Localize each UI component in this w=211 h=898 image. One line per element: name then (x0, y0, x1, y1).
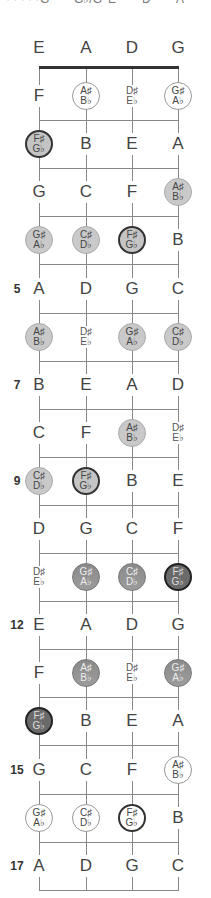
note-marker: F♯G♭ (72, 467, 100, 495)
flat-name: A♭ (172, 96, 184, 106)
note-marker: G♯A♭ (164, 82, 192, 110)
note-marker: F♯G♭ (25, 707, 53, 735)
string-label-a: A (80, 38, 91, 58)
string-label-e: E (33, 38, 44, 58)
flat-name: E♭ (172, 433, 184, 443)
note-marker: C♯D♭ (25, 467, 53, 495)
note-d: D (33, 519, 45, 539)
note-d: D (172, 375, 184, 395)
note-c: C (80, 760, 92, 780)
flat-name: A♭ (172, 673, 184, 683)
note-a: A (33, 279, 44, 299)
fret-line (39, 890, 179, 891)
note-marker: F♯G♭ (118, 226, 146, 254)
note-c: C (172, 856, 184, 876)
note-marker: F♯G♭ (164, 563, 192, 591)
note-e: E (172, 471, 183, 491)
flat-name: G♭ (126, 818, 139, 828)
note-c: C (126, 519, 138, 539)
fret-line (39, 553, 179, 554)
fret-number: 12 (10, 618, 23, 632)
nut (39, 66, 179, 69)
top-cutoff-text: · · · · ·GG♭/GEDA (0, 0, 211, 6)
note-a: A (126, 375, 137, 395)
cutoff-label: A (176, 0, 184, 6)
note-b: B (126, 471, 137, 491)
note-accidental: D♯E♭ (126, 663, 138, 683)
note-marker: G♯A♭ (25, 226, 53, 254)
note-f: F (81, 423, 91, 443)
fret-line (39, 361, 179, 362)
flat-name: B♭ (80, 673, 92, 683)
flat-name: B♭ (33, 337, 45, 347)
fret-line (39, 168, 179, 169)
flat-name: E♭ (33, 577, 45, 587)
note-d: D (80, 856, 92, 876)
note-marker: C♯D♭ (72, 804, 100, 832)
fret-number: 9 (14, 474, 21, 488)
flat-name: G♭ (33, 721, 46, 731)
note-g: G (125, 856, 138, 876)
note-accidental: D♯E♭ (172, 423, 184, 443)
note-marker: A♯B♭ (164, 178, 192, 206)
flat-name: G♭ (172, 577, 185, 587)
note-f: F (34, 86, 44, 106)
flat-name: A♭ (80, 577, 92, 587)
note-a: A (172, 711, 183, 731)
fret-line (39, 313, 179, 314)
note-marker: C♯D♭ (72, 226, 100, 254)
flat-name: B♭ (80, 96, 92, 106)
note-marker: G♯A♭ (25, 804, 53, 832)
note-f: F (34, 663, 44, 683)
note-marker: G♯A♭ (72, 563, 100, 591)
note-marker: A♯B♭ (25, 323, 53, 351)
note-g: G (125, 279, 138, 299)
note-marker: A♯B♭ (72, 82, 100, 110)
flat-name: E♭ (80, 337, 92, 347)
fret-line (39, 745, 179, 746)
fret-line (39, 601, 179, 602)
cutoff-label: E (108, 0, 116, 6)
note-g: G (32, 760, 45, 780)
flat-name: D♭ (33, 481, 45, 491)
flat-name: G♭ (126, 240, 139, 250)
note-accidental: D♯E♭ (33, 567, 45, 587)
cutoff-label: · · · · · (6, 0, 39, 6)
note-accidental: D♯E♭ (126, 86, 138, 106)
note-c: C (172, 279, 184, 299)
note-d: D (80, 279, 92, 299)
note-a: A (33, 856, 44, 876)
note-marker: F♯G♭ (118, 804, 146, 832)
note-c: C (33, 423, 45, 443)
flat-name: A♭ (33, 818, 45, 828)
string-label-d: D (126, 38, 138, 58)
note-e: E (126, 711, 137, 731)
fret-line (39, 505, 179, 506)
fret-line (39, 842, 179, 843)
note-b: B (80, 134, 91, 154)
flat-name: A♭ (126, 337, 138, 347)
note-marker: C♯D♭ (164, 323, 192, 351)
flat-name: B♭ (172, 192, 184, 202)
note-a: A (172, 134, 183, 154)
note-accidental: D♯E♭ (80, 327, 92, 347)
string-label-g: G (171, 38, 184, 58)
fret-line (39, 457, 179, 458)
note-marker: G♯A♭ (164, 659, 192, 687)
fret-line (39, 649, 179, 650)
note-e: E (126, 134, 137, 154)
flat-name: D♭ (80, 240, 92, 250)
fret-number: 7 (14, 378, 21, 392)
note-a: A (80, 615, 91, 635)
note-e: E (80, 375, 91, 395)
note-b: B (172, 230, 183, 250)
note-f: F (127, 182, 137, 202)
flat-name: E♭ (126, 96, 138, 106)
flat-name: A♭ (33, 240, 45, 250)
fretboard-diagram: · · · · ·GG♭/GEDAEADGFA♯B♭D♯E♭G♯A♭F♯G♭BE… (0, 0, 211, 898)
fret-line (39, 264, 179, 265)
note-e: E (33, 615, 44, 635)
note-c: C (80, 182, 92, 202)
note-marker: A♯B♭ (118, 419, 146, 447)
fret-number: 15 (10, 763, 23, 777)
